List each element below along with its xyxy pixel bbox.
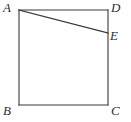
vertex-label-a: A bbox=[3, 1, 11, 14]
vertex-label-e: E bbox=[110, 29, 118, 42]
vertex-label-d: D bbox=[111, 1, 120, 14]
vertex-label-b: B bbox=[3, 104, 11, 117]
segment-a-to-e bbox=[19, 10, 108, 33]
geometry-figure: A D E B C bbox=[0, 0, 131, 122]
vertex-label-c: C bbox=[111, 104, 120, 117]
